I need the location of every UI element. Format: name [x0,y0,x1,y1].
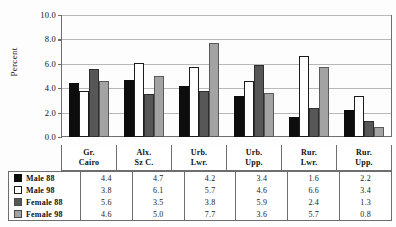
bar [144,94,154,137]
bar [254,65,264,137]
table-cell: 4.6 [236,184,288,196]
chart-plot-region: Percent 10.08.06.04.02.00.0 [0,5,396,145]
category-label-line: Rur. [356,148,372,158]
category-label-line: Lwr. [191,158,208,168]
bar [79,91,89,137]
table-cell: 3.6 [236,208,288,220]
category-label: Urb.Lwr. [172,145,227,170]
table-cell: 3.8 [185,196,237,208]
table-values: 4.65.07.73.65.70.8 [81,208,391,220]
bar-group [226,15,281,137]
bar-group [336,15,391,137]
bar [189,67,199,137]
y-tick-label: 0.0 [45,133,56,142]
bar-group [281,15,336,137]
category-label-line: Rur. [301,148,317,158]
y-axis-tick-labels: 10.08.06.04.02.00.0 [14,15,56,137]
legend-swatch-icon [14,174,22,182]
legend-entry: Male 98 [9,184,81,196]
table-cell: 7.7 [185,208,237,220]
y-tick-label: 6.0 [45,60,56,69]
table-cell: 2.4 [288,196,340,208]
table-cell: 3.5 [133,196,185,208]
table-cell: 3.4 [340,184,391,196]
category-label-line: Sz C. [135,158,154,168]
y-tick-label: 4.0 [45,84,56,93]
table-row: Female 984.65.07.73.65.70.8 [9,208,391,220]
legend-label: Male 88 [26,174,55,183]
legend-swatch-icon [14,198,22,206]
bar [319,67,329,137]
table-row: Male 983.86.15.74.66.63.4 [9,184,391,196]
bar [124,80,134,137]
bar [154,76,164,137]
y-tick-label: 8.0 [45,35,56,44]
legend-label: Female 88 [26,198,63,207]
y-tick-label: 2.0 [45,108,56,117]
table-cell: 0.8 [340,208,391,220]
category-label-line: Urb. [191,148,208,158]
table-cell: 5.6 [81,196,133,208]
table-cell: 5.9 [236,196,288,208]
table-cell: 4.7 [133,172,185,184]
table-values: 4.44.74.23.41.62.2 [81,172,391,184]
legend-entry: Female 98 [9,208,81,220]
plot-area [61,15,392,137]
table-cell: 4.2 [185,172,237,184]
category-label-line: Upp. [245,158,262,168]
legend-label: Female 98 [26,210,63,219]
bar-groups [62,15,391,137]
category-label-line: Alx. [137,148,152,158]
category-label-line: Cairo [79,158,99,168]
bar [99,81,109,137]
category-label: Gr.Cairo [62,145,117,170]
bar-group [172,15,227,137]
table-cell: 5.7 [288,208,340,220]
bar [264,93,274,137]
bar-group [117,15,172,137]
bar [299,56,309,137]
y-tick-mark [58,137,62,138]
bar-group [62,15,117,137]
category-label: Rur.Upp. [337,145,391,170]
table-cell: 1.3 [340,196,391,208]
table-cell: 2.2 [340,172,391,184]
chart-figure: Percent 10.08.06.04.02.00.0 Gr.CairoAlx.… [0,0,396,227]
category-header-row: Gr.CairoAlx.Sz C.Urb.Lwr.Urb.Upp.Rur.Lwr… [61,145,392,171]
table-cell: 5.7 [185,184,237,196]
bar [354,96,364,137]
legend-swatch-icon [14,210,22,218]
bar [134,63,144,137]
table-values: 3.86.15.74.66.63.4 [81,184,391,196]
table-cell: 4.4 [81,172,133,184]
bar [199,91,209,137]
legend-entry: Female 88 [9,196,81,208]
table-cell: 3.4 [236,172,288,184]
bar [89,69,99,137]
category-label: Urb.Upp. [227,145,282,170]
table-cell: 4.6 [81,208,133,220]
legend-label: Male 98 [26,186,55,195]
legend-swatch-icon [14,186,22,194]
table-row: Male 884.44.74.23.41.62.2 [9,172,391,184]
bar [289,117,299,137]
bar [69,83,79,137]
legend-entry: Male 88 [9,172,81,184]
table-cell: 5.0 [133,208,185,220]
y-tick-label: 10.0 [40,11,56,20]
bar [309,108,319,137]
bar [234,96,244,137]
data-table: Male 884.44.74.23.41.62.2Male 983.86.15.… [8,171,392,221]
bar [344,110,354,137]
category-label-line: Lwr. [301,158,318,168]
category-label: Rur.Lwr. [282,145,337,170]
table-cell: 3.8 [81,184,133,196]
bar [244,81,254,137]
category-label-line: Upp. [355,158,372,168]
bar [179,86,189,137]
table-cell: 1.6 [288,172,340,184]
table-values: 5.63.53.85.92.41.3 [81,196,391,208]
table-row: Female 885.63.53.85.92.41.3 [9,196,391,208]
category-label-line: Urb. [246,148,263,158]
category-label: Alx.Sz C. [117,145,172,170]
